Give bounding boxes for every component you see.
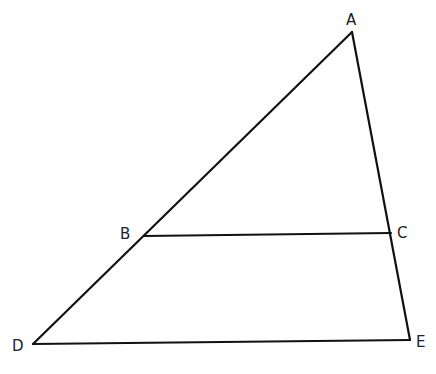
label-A: A bbox=[346, 11, 357, 29]
segment-AD bbox=[33, 32, 352, 344]
segment-DE bbox=[33, 340, 410, 344]
label-B: B bbox=[120, 225, 130, 243]
geometry-diagram: A B C D E bbox=[0, 0, 436, 374]
segment-AE bbox=[352, 32, 410, 340]
label-E: E bbox=[416, 333, 425, 351]
label-C: C bbox=[397, 224, 407, 242]
segment-BC bbox=[144, 233, 391, 236]
label-D: D bbox=[12, 337, 24, 355]
